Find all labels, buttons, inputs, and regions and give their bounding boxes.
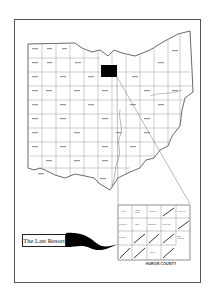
svg-text:HARTLAND: HARTLAND <box>162 223 171 225</box>
svg-text:WAKEMAN: WAKEMAN <box>177 210 186 212</box>
inset-caption: HURON COUNTY <box>136 262 186 266</box>
svg-text:NORWALK: NORWALK <box>149 210 158 212</box>
svg-text:NORWICH: NORWICH <box>119 237 128 238</box>
svg-text:RIDGE: RIDGE <box>135 210 140 211</box>
svg-text:RIPLEY: RIPLEY <box>150 252 157 253</box>
svg-text:BRONSON: BRONSON <box>148 224 157 225</box>
map-title: The Last Resort <box>22 234 66 247</box>
huron-county-highlight[interactable] <box>101 65 117 77</box>
svg-text:LYME: LYME <box>121 211 125 212</box>
title-swoosh <box>66 233 118 250</box>
huron-county-inset: LYME RIDGE FIELD NORWALK WAKEMAN SHERMAN… <box>118 205 190 260</box>
svg-text:NEW: NEW <box>177 236 181 237</box>
svg-text:SHERMAN: SHERMAN <box>119 223 128 225</box>
svg-text:LONDON: LONDON <box>177 238 185 239</box>
ohio-map: LYME RIDGE FIELD NORWALK WAKEMAN SHERMAN… <box>0 0 212 296</box>
